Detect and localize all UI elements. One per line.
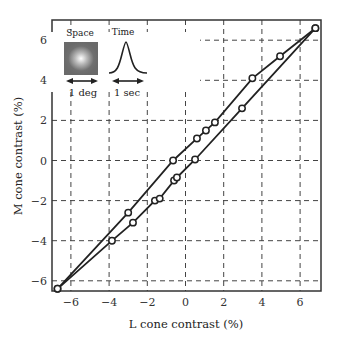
y-tick-label: 4 [40, 74, 47, 87]
x-axis-ticks: −6−4−20246 [63, 296, 304, 309]
y-tick-label: 0 [40, 155, 47, 168]
data-point [130, 219, 136, 225]
space-scale-label: 1 deg [69, 87, 98, 98]
x-tick-label: 4 [258, 296, 265, 309]
chart: −6−4−20246 −6−4−20246 Space Time 1 deg 1… [0, 0, 338, 338]
x-tick-label: 0 [182, 296, 189, 309]
inset-legend: Space Time 1 deg 1 sec [50, 27, 200, 98]
inset-space-label: Space [66, 28, 94, 38]
y-axis-label: M cone contrast (%) [11, 97, 25, 216]
data-point [170, 157, 176, 163]
data-point [277, 53, 283, 59]
y-tick-label: 2 [40, 114, 47, 127]
data-point [192, 156, 198, 162]
data-point [54, 286, 60, 292]
data-point [249, 75, 255, 81]
data-point [125, 209, 131, 215]
data-point [157, 195, 163, 201]
y-axis-ticks: −6−4−20246 [31, 34, 47, 288]
data-point [203, 127, 209, 133]
x-tick-label: 2 [220, 296, 227, 309]
x-tick-label: −2 [139, 296, 155, 309]
y-tick-label: −2 [31, 195, 47, 208]
x-tick-label: 6 [297, 296, 304, 309]
data-point [174, 174, 180, 180]
x-tick-label: −6 [63, 296, 79, 309]
time-scale-label: 1 sec [114, 87, 141, 98]
data-point [194, 135, 200, 141]
x-axis-label: L cone contrast (%) [129, 317, 243, 331]
x-tick-label: −4 [101, 296, 117, 309]
inset-time-label: Time [112, 27, 135, 37]
data-point [239, 105, 245, 111]
space-gaussian-image [64, 42, 98, 75]
data-point [212, 119, 218, 125]
y-tick-label: 6 [40, 34, 47, 47]
y-tick-label: −4 [31, 235, 47, 248]
data-point [312, 25, 318, 31]
y-tick-label: −6 [31, 275, 47, 288]
data-point [109, 238, 115, 244]
